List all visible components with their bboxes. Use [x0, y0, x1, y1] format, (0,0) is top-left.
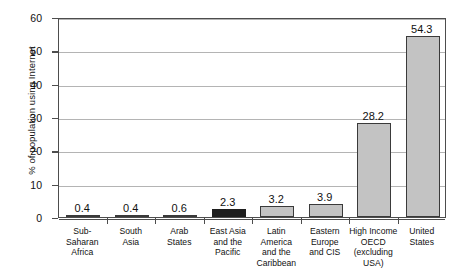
x-category-label-line: Europe — [301, 237, 350, 248]
x-category-label-line: America — [252, 237, 301, 248]
x-category-label: ArabStates — [155, 226, 204, 247]
x-category-label-line: Asia — [107, 237, 156, 248]
x-category-label: LatinAmericaand theCaribbean — [252, 226, 301, 268]
x-category-label-line: and the — [252, 247, 301, 258]
x-tick-mark — [398, 218, 399, 224]
y-tick-label-0: 0 — [2, 212, 42, 224]
x-category-label-line: Latin — [252, 226, 301, 237]
y-tick-label-60: 60 — [2, 12, 42, 24]
bar — [406, 36, 440, 217]
x-category-label-line: South — [107, 226, 156, 237]
bar-value-label: 54.3 — [392, 23, 452, 35]
x-category-label-line: Pacific — [204, 247, 253, 258]
gridline-40 — [59, 86, 445, 87]
bar — [115, 215, 149, 217]
x-category-label-line: Sub-Saharan — [58, 226, 107, 247]
y-tick-label-50: 50 — [2, 45, 42, 57]
bar — [357, 123, 391, 217]
bar — [212, 209, 246, 217]
x-category-label-line: Africa — [58, 247, 107, 258]
gridline-60 — [59, 19, 445, 20]
x-category-label-line: OECD — [349, 237, 398, 248]
x-tick-mark — [107, 218, 108, 224]
x-category-label-line: East Asia — [204, 226, 253, 237]
bar-chart: % of population using Internet 010203040… — [0, 0, 466, 273]
x-tick-mark — [155, 218, 156, 224]
x-tick-mark — [349, 218, 350, 224]
x-category-label-line: (excluding USA) — [349, 247, 398, 268]
bar-value-label: 3.9 — [295, 191, 355, 203]
x-category-label-line: Caribbean — [252, 258, 301, 269]
y-axis-title: % of population using Internet — [26, 16, 37, 206]
x-category-label: High IncomeOECD(excluding USA) — [349, 226, 398, 268]
x-category-label: Sub-SaharanAfrica — [58, 226, 107, 258]
y-tick-label-10: 10 — [2, 179, 42, 191]
x-category-label-line: Eastern — [301, 226, 350, 237]
bar — [260, 206, 294, 217]
x-category-label-line: and CIS — [301, 247, 350, 258]
x-category-label: UnitedStates — [398, 226, 447, 247]
bar-value-label: 28.2 — [343, 110, 403, 122]
x-category-label: East Asiaand thePacific — [204, 226, 253, 258]
x-category-label-line: Arab — [155, 226, 204, 237]
x-category-label-line: and the — [204, 237, 253, 248]
y-tick-label-40: 40 — [2, 79, 42, 91]
x-category-label-line: States — [155, 237, 204, 248]
x-tick-mark — [301, 218, 302, 224]
bar — [163, 215, 197, 217]
y-tick-label-30: 30 — [2, 112, 42, 124]
bar — [309, 204, 343, 217]
x-category-label-line: United — [398, 226, 447, 237]
x-tick-mark — [252, 218, 253, 224]
y-tick-mark-0 — [52, 218, 58, 219]
x-category-label-line: High Income — [349, 226, 398, 237]
x-category-label-line: States — [398, 237, 447, 248]
bar — [66, 215, 100, 217]
x-category-label: EasternEuropeand CIS — [301, 226, 350, 258]
x-category-label: SouthAsia — [107, 226, 156, 247]
gridline-50 — [59, 52, 445, 53]
x-tick-mark — [204, 218, 205, 224]
y-tick-label-20: 20 — [2, 145, 42, 157]
